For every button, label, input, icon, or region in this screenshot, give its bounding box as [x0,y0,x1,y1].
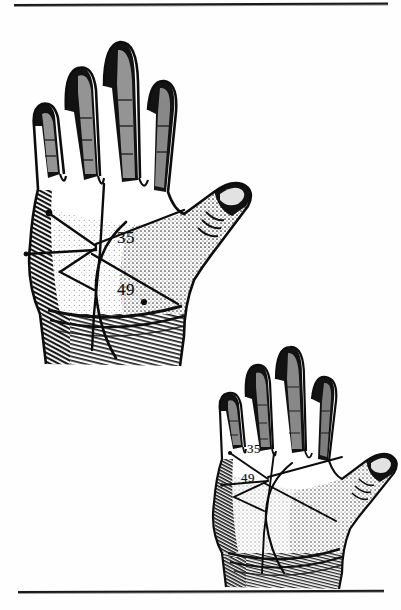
marking-label-49-small: 49 [241,470,255,486]
top-rule [14,3,388,6]
large-hand-drawing [18,24,288,374]
endpoint-dot-upper-left [46,210,53,217]
figure-small-hand [198,325,398,587]
illustration-page: 35 49 [0,0,401,610]
marking-label-35-small: 35 [247,441,261,457]
marking-label-35-large: 35 [117,228,135,248]
endpoint-dot-left [24,252,29,257]
small-hand-drawing [202,329,401,595]
endpoint-dot-upper-left [228,451,232,455]
figure-large-hand [8,14,288,364]
endpoint-dot-left [220,483,224,487]
endpoint-dot-49 [141,299,147,305]
marking-label-49-large: 49 [117,280,135,300]
